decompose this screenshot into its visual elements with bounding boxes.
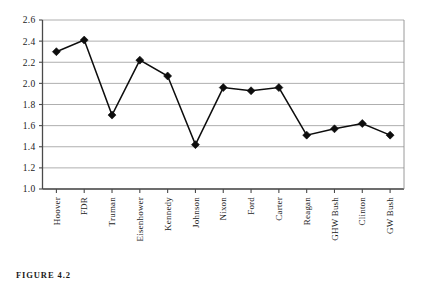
y-axis-tick-label: 2.2 bbox=[23, 58, 36, 68]
data-point-marker bbox=[275, 84, 283, 92]
y-axis-labels: 1.01.21.41.61.82.02.22.42.6 bbox=[23, 15, 36, 194]
data-point-marker bbox=[108, 111, 116, 119]
x-axis-tick-label: Eisenhower bbox=[135, 197, 145, 242]
x-axis-tick-label: Nixon bbox=[218, 197, 228, 221]
data-point-marker bbox=[386, 131, 394, 139]
data-point-marker bbox=[358, 120, 366, 128]
x-axis-tick-label: Carter bbox=[274, 197, 284, 221]
data-point-marker bbox=[247, 87, 255, 95]
x-axis-tick-label: Reagan bbox=[302, 197, 312, 225]
data-point-marker bbox=[136, 56, 144, 64]
data-point-marker bbox=[80, 36, 88, 44]
y-axis-tick-label: 2.4 bbox=[23, 37, 36, 47]
x-axis-tick-label: Hoover bbox=[52, 197, 62, 225]
x-axis-tick-label: Ford bbox=[246, 197, 256, 215]
x-axis-tick-label: GHW Bush bbox=[330, 197, 340, 241]
data-point-marker bbox=[303, 131, 311, 139]
series-line bbox=[56, 40, 390, 145]
x-axis-tick-label: Johnson bbox=[191, 197, 201, 228]
figure-container: 1.01.21.41.61.82.02.22.42.6 HooverFDRTru… bbox=[0, 0, 425, 290]
y-axis-tick-label: 2.0 bbox=[23, 79, 36, 89]
x-axis-labels: HooverFDRTrumanEisenhowerKennedyJohnsonN… bbox=[52, 197, 396, 242]
y-axis-tick-label: 1.0 bbox=[23, 184, 36, 194]
line-chart: 1.01.21.41.61.82.02.22.42.6 HooverFDRTru… bbox=[0, 0, 425, 290]
x-axis-tick-label: FDR bbox=[79, 197, 89, 215]
y-axis-tick-label: 1.2 bbox=[23, 163, 36, 173]
x-axis-tick-label: Clinton bbox=[357, 197, 367, 226]
x-axis-tick-label: Kennedy bbox=[163, 197, 173, 231]
data-series bbox=[52, 36, 394, 149]
y-axis-tick-label: 1.6 bbox=[23, 121, 36, 131]
y-axis-tick-label: 1.8 bbox=[23, 100, 36, 110]
data-point-marker bbox=[164, 72, 172, 80]
data-point-marker bbox=[52, 48, 60, 56]
x-axis-tick-label: Truman bbox=[107, 197, 117, 227]
x-axis-tick-label: GW Bush bbox=[385, 197, 395, 234]
gridlines bbox=[43, 20, 405, 189]
y-axis-tick-label: 1.4 bbox=[23, 142, 36, 152]
y-axis-tick-label: 2.6 bbox=[23, 15, 36, 25]
figure-caption: FIGURE 4.2 bbox=[16, 270, 71, 280]
data-point-marker bbox=[219, 84, 227, 92]
data-point-marker bbox=[191, 141, 199, 149]
